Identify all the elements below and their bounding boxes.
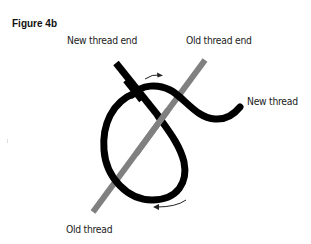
- figure-canvas: Figure 4b New thread end Old thread end …: [0, 0, 311, 244]
- old-thread-label: Old thread: [66, 223, 112, 235]
- old-thread-over-segment: [136, 110, 168, 154]
- top-arrow-icon: [145, 73, 163, 80]
- stray-mark: [7, 139, 8, 143]
- old-thread-end-label: Old thread end: [186, 34, 252, 46]
- knot-diagram: [0, 0, 311, 244]
- new-thread-end-label: New thread end: [67, 34, 137, 46]
- new-thread-label: New thread: [247, 95, 298, 107]
